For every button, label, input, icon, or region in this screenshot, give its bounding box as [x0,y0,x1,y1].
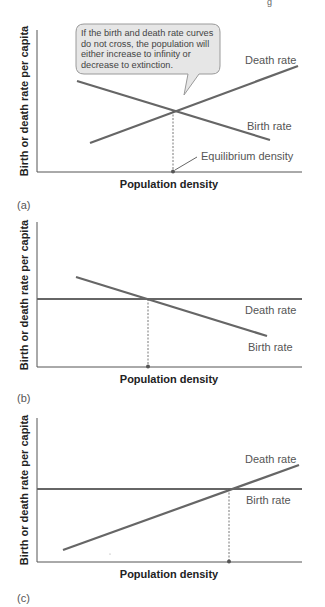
cropped-text-fragment: g [267,0,272,7]
print-speck [109,553,110,554]
birth-rate-label: Birth rate [247,120,292,132]
death-rate-line [63,465,299,550]
death-rate-label: Death rate [245,304,296,316]
panel-label-b: (b) [17,392,30,404]
x-axis-label: Population density [120,178,219,190]
death-rate-label: Death rate [245,54,296,66]
equilibrium-point-marker [146,365,150,369]
y-axis-label: Birth or death rate per capita [18,219,30,370]
birth-rate-line [77,81,270,140]
panel-b: Birth or death rate per capita Death rat… [17,219,302,404]
figure-canvas: g Birth or death rate per capita Equilib… [0,0,325,607]
equilibrium-point-marker [171,170,175,174]
panel-label-c: (c) [17,592,30,604]
callout-line-4: decrease to extinction. [81,60,173,70]
birth-rate-label: Birth rate [248,341,293,353]
birth-rate-label: Birth rate [246,494,291,506]
callout-bubble: If the birth and death rate curves do no… [76,24,220,95]
equilibrium-leader-line [175,157,197,170]
y-axis-label: Birth or death rate per capita [18,25,30,176]
panel-c: Birth or death rate per capita Death rat… [17,414,302,604]
panel-label-a: (a) [17,199,30,211]
y-axis-label: Birth or death rate per capita [18,414,30,565]
callout-line-2: do not cross, the population will [81,39,209,49]
x-axis-label: Population density [120,373,219,385]
equilibrium-density-label: Equilibrium density [201,150,294,162]
equilibrium-point-marker [227,560,231,564]
x-axis-label: Population density [120,568,219,580]
birth-rate-line [76,277,267,336]
callout-line-3: either increase to infinity or [81,49,191,59]
death-rate-label: Death rate [245,453,296,465]
panel-a: Birth or death rate per capita Equilibri… [17,24,302,211]
callout-line-1: If the birth and death rate curves [81,28,214,38]
